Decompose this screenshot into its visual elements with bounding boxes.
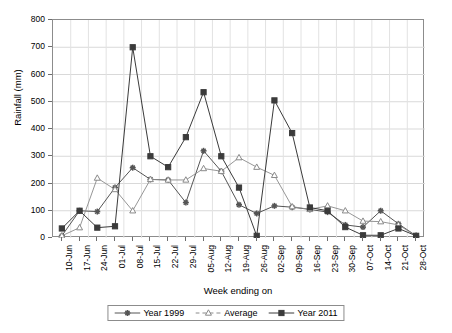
y-tick-label: 100 — [31, 206, 45, 215]
y-tick-mark — [48, 101, 52, 102]
legend-item-year-2011[interactable]: Year 2011 — [269, 308, 338, 318]
legend-label: Average — [224, 308, 257, 318]
square-marker — [166, 165, 171, 170]
x-tick-label: 12-Aug — [224, 245, 233, 272]
square-marker — [112, 224, 117, 229]
x-tick-label: 23-Sep — [331, 245, 340, 272]
x-tick-label: 10-Jun — [65, 245, 74, 271]
x-tick-label: 22-Jul — [171, 245, 180, 268]
star-marker — [271, 203, 277, 209]
plot-area — [52, 19, 424, 237]
x-axis-title: Week ending on — [52, 285, 424, 296]
x-tick-mark — [185, 237, 186, 241]
triangle-legend-icon — [195, 308, 221, 318]
legend-item-year-1999[interactable]: Year 1999 — [114, 308, 184, 318]
square-marker — [279, 310, 284, 315]
x-tick-mark — [327, 237, 328, 241]
x-tick-mark — [380, 237, 381, 241]
x-tick-mark — [273, 237, 274, 241]
x-tick-mark — [397, 237, 398, 241]
x-tick-mark — [415, 237, 416, 241]
x-tick-mark — [344, 237, 345, 241]
square-marker — [325, 208, 330, 213]
star-marker — [254, 210, 260, 216]
x-tick-mark — [291, 237, 292, 241]
star-legend-icon — [114, 308, 140, 318]
y-axis-title: Rainfall (mm) — [12, 43, 23, 153]
y-axis: 0100200300400500600700800 — [0, 0, 52, 256]
y-tick-mark — [48, 74, 52, 75]
triangle-marker — [77, 224, 83, 229]
star-marker — [94, 209, 100, 215]
square-marker — [148, 154, 153, 159]
x-tick-mark — [220, 237, 221, 241]
x-tick-label: 29-Jul — [189, 245, 198, 268]
x-tick-label: 28-Oct — [419, 245, 428, 271]
x-tick-label: 30-Sep — [348, 245, 357, 272]
x-tick-label: 07-Oct — [366, 245, 375, 271]
y-tick-label: 0 — [40, 233, 45, 242]
legend-label: Year 2011 — [298, 308, 338, 318]
x-tick-label: 21-Oct — [401, 245, 410, 271]
triangle-marker — [325, 203, 331, 208]
x-tick-label: 16-Sep — [313, 245, 322, 272]
x-tick-label: 17-Jun — [83, 245, 92, 271]
x-tick-label: 24-Jun — [100, 245, 109, 271]
y-tick-mark — [48, 19, 52, 20]
x-tick-mark — [114, 237, 115, 241]
x-tick-mark — [132, 237, 133, 241]
x-tick-label: 14-Oct — [384, 245, 393, 271]
series-layer — [53, 20, 425, 238]
square-marker — [396, 226, 401, 231]
y-tick-mark — [48, 46, 52, 47]
triangle-marker — [360, 218, 366, 223]
x-tick-mark — [362, 237, 363, 241]
y-tick-mark — [48, 128, 52, 129]
square-marker — [130, 45, 135, 50]
x-axis: 10-Jun17-Jun24-Jun01-Jul08-Jul15-Jul22-J… — [52, 237, 424, 287]
square-marker — [307, 205, 312, 210]
legend-item-average[interactable]: Average — [195, 308, 257, 318]
square-marker — [95, 225, 100, 230]
x-tick-mark — [238, 237, 239, 241]
x-tick-mark — [309, 237, 310, 241]
y-tick-label: 400 — [31, 124, 45, 133]
y-tick-mark — [48, 210, 52, 211]
x-tick-label: 09-Sep — [295, 245, 304, 272]
square-marker — [59, 226, 64, 231]
star-marker — [124, 310, 130, 316]
triangle-marker — [183, 177, 189, 182]
x-tick-label: 02-Sep — [277, 245, 286, 272]
legend-label: Year 1999 — [143, 308, 184, 318]
square-marker — [201, 90, 206, 95]
star-marker — [378, 208, 384, 214]
square-marker — [272, 98, 277, 103]
triangle-marker — [94, 175, 100, 180]
y-tick-label: 300 — [31, 151, 45, 160]
y-tick-label: 700 — [31, 42, 45, 51]
square-legend-icon — [269, 308, 295, 318]
square-marker — [236, 185, 241, 190]
x-tick-label: 19-Aug — [242, 245, 251, 272]
square-marker — [183, 135, 188, 140]
star-marker — [236, 202, 242, 208]
rainfall-line-chart: 0100200300400500600700800 Rainfall (mm) … — [0, 0, 452, 333]
x-tick-label: 01-Jul — [118, 245, 127, 268]
y-tick-label: 600 — [31, 70, 45, 79]
y-tick-mark — [48, 183, 52, 184]
x-tick-mark — [149, 237, 150, 241]
square-marker — [290, 130, 295, 135]
square-marker — [77, 208, 82, 213]
x-tick-mark — [61, 237, 62, 241]
triangle-marker — [201, 165, 207, 170]
triangle-marker — [236, 154, 242, 159]
series-3 — [59, 45, 418, 238]
square-marker — [343, 225, 348, 230]
y-tick-label: 200 — [31, 179, 45, 188]
y-tick-label: 800 — [31, 15, 45, 24]
x-tick-label: 08-Jul — [136, 245, 145, 268]
x-tick-mark — [79, 237, 80, 241]
x-tick-mark — [203, 237, 204, 241]
triangle-marker — [254, 164, 260, 169]
x-tick-label: 26-Aug — [260, 245, 269, 272]
